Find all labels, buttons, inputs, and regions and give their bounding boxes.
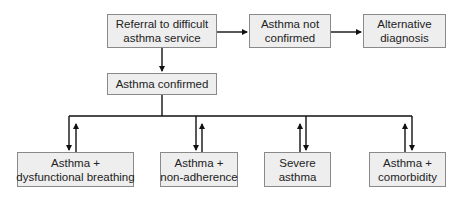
node-alternative-line-1: Alternative (377, 17, 431, 31)
node-non-adherence-line-1: Asthma + (175, 156, 224, 170)
node-severe-line-1: Severe (279, 156, 315, 170)
node-not-confirmed-line-1: Asthma not (261, 17, 319, 31)
node-severe-asthma: Severe asthma (264, 152, 331, 187)
node-referral-line-2: asthma service (123, 31, 200, 45)
node-severe-line-2: asthma (279, 170, 317, 184)
node-dysfunctional-line-2: dysfunctional breathing (16, 170, 134, 184)
flowchart-canvas: Referral to difficult asthma service Ast… (0, 0, 464, 198)
node-comorbidity-line-2: comorbidity (378, 170, 437, 184)
node-alternative-diagnosis: Alternative diagnosis (363, 14, 446, 48)
node-alternative-line-2: diagnosis (380, 31, 429, 45)
node-comorbidity: Asthma + comorbidity (369, 152, 446, 187)
node-asthma-confirmed: Asthma confirmed (107, 73, 217, 95)
node-confirmed-line-1: Asthma confirmed (116, 77, 209, 91)
node-dysfunctional-breathing: Asthma + dysfunctional breathing (17, 152, 134, 187)
node-non-adherence-line-2: non-adherence (160, 170, 237, 184)
node-referral-line-1: Referral to difficult (116, 17, 208, 31)
node-non-adherence: Asthma + non-adherence (160, 152, 238, 187)
node-asthma-not-confirmed: Asthma not confirmed (249, 14, 331, 48)
node-comorbidity-line-1: Asthma + (383, 156, 432, 170)
node-not-confirmed-line-2: confirmed (265, 31, 316, 45)
node-dysfunctional-line-1: Asthma + (51, 156, 100, 170)
node-referral: Referral to difficult asthma service (107, 14, 217, 48)
